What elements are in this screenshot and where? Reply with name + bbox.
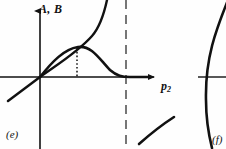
curve-lower-right-arc [139, 117, 174, 144]
panel-label-f: (f) [212, 134, 222, 145]
x-axis-label-subscript: 2 [167, 85, 171, 94]
figure-canvas [0, 0, 226, 149]
curve-panel-f-branch [206, 0, 226, 148]
figure-panel-e: A, B p2 (e) (f) [0, 0, 226, 149]
panel-label-e: (e) [6, 129, 18, 140]
y-axis-label: A, B [39, 3, 62, 15]
curve-branch-b-hump [40, 47, 150, 77]
x-axis-label: p2 [161, 80, 171, 94]
